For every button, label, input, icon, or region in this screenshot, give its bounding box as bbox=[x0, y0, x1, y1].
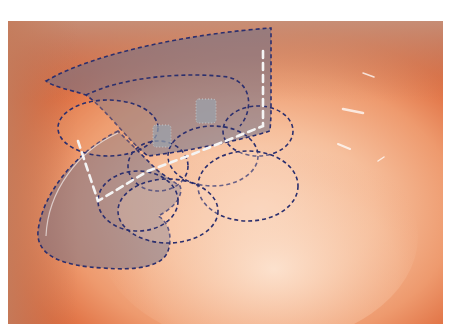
marker-right bbox=[196, 99, 216, 123]
photo-canvas bbox=[8, 21, 443, 324]
anatomical-photo bbox=[8, 21, 443, 324]
marker-left bbox=[153, 125, 171, 147]
ellipse-bottom bbox=[118, 179, 218, 243]
ellipse-left bbox=[58, 100, 158, 156]
